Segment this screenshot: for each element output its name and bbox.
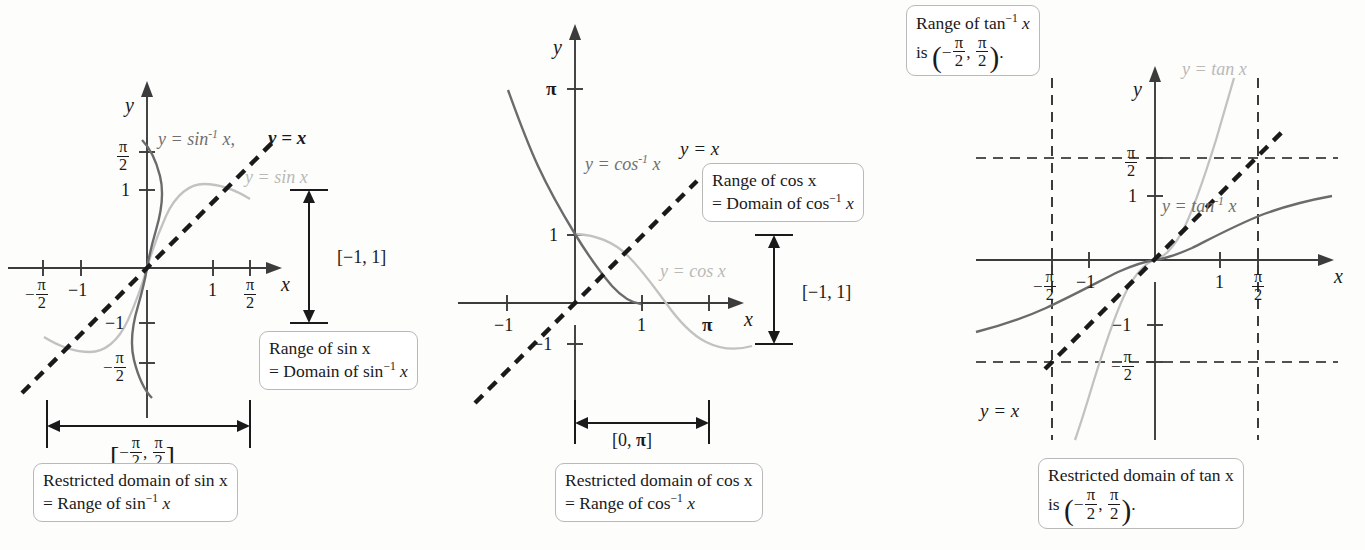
sine-inverse-label-var: x xyxy=(223,129,231,149)
sine-range-bracket xyxy=(290,190,328,323)
cosine-axes xyxy=(458,24,744,405)
tangent-direct-curve-label: y = tan x xyxy=(1182,60,1247,78)
sine-domain-callout: Restricted domain of sin x = Range of si… xyxy=(33,463,238,522)
sine-identity-curve-label: y = x xyxy=(268,128,306,147)
sine-range-callout: Range of sin x = Domain of sin−1 x xyxy=(259,331,418,390)
sine-x-axis-label: x xyxy=(281,274,290,294)
tangent-identity-line xyxy=(1045,131,1283,369)
tangent-panel: y x y = tan x y = tan-1 x y = x −π2 −1 1… xyxy=(890,0,1365,550)
tangent-domain-callout-line1: Restricted domain of tan x xyxy=(1048,464,1234,486)
tangent-ytick-1: 1 xyxy=(1128,187,1137,205)
sine-ytick-pi-2: π2 xyxy=(116,139,130,173)
tangent-range-callout-line1: Range of tan−1 x xyxy=(916,11,1030,34)
sine-range-callout-line2: = Domain of sin−1 x xyxy=(269,359,408,382)
tangent-identity-curve-label: y = x xyxy=(980,401,1019,420)
cosine-direct-curve xyxy=(576,234,752,349)
cosine-ytick-pi: π xyxy=(546,79,556,98)
cosine-range-callout: Range of cos x = Domain of cos−1 x xyxy=(702,163,864,222)
cosine-identity-line xyxy=(475,181,697,403)
cosine-xtick-neg-1: −1 xyxy=(494,316,513,334)
tangent-ytick-neg-pi-2: −π2 xyxy=(1111,349,1135,383)
tangent-inverse-label-var: x xyxy=(1229,196,1237,216)
cosine-domain-callout: Restricted domain of cos x = Range of co… xyxy=(555,463,763,522)
cosine-inverse-label-exp: -1 xyxy=(638,152,648,166)
sine-xtick-pi-2: π2 xyxy=(243,277,257,311)
cosine-panel: y x y = cos-1 x y = x y = cos x −1 1 π π… xyxy=(430,0,910,550)
cosine-domain-callout-line1: Restricted domain of cos x xyxy=(565,469,753,491)
tangent-inverse-label-text: y = tan xyxy=(1162,196,1214,216)
sine-ytick-1: 1 xyxy=(121,181,130,199)
tangent-xtick-1: 1 xyxy=(1215,273,1224,291)
cosine-domain-interval-label: [0, π] xyxy=(612,430,652,451)
sine-inverse-label-exp: -1 xyxy=(208,127,218,141)
cosine-inverse-label-text: y = cos xyxy=(585,154,638,174)
sine-xtick-neg-pi-2: −π2 xyxy=(25,277,49,311)
cosine-range-interval-label: [−1, 1] xyxy=(802,282,851,303)
tangent-ytick-neg-1: −1 xyxy=(1112,316,1131,334)
tangent-xtick-neg-1: −1 xyxy=(1076,273,1095,291)
tangent-xtick-neg-pi-2: −π2 xyxy=(1033,269,1057,303)
cosine-identity-curve-label: y = x xyxy=(680,139,719,158)
sine-panel: y x y = sin-1 x, y = x y = sin x −π2 −1 … xyxy=(0,0,455,550)
tangent-range-callout: Range of tan−1 x is (−π2, π2). xyxy=(906,5,1040,76)
cosine-ytick-neg-1: −1 xyxy=(533,335,552,353)
sine-range-interval-label: [−1, 1] xyxy=(337,247,386,268)
tangent-domain-callout-line2: is (−π2, π2). xyxy=(1048,486,1234,521)
tangent-ytick-pi-2: π2 xyxy=(1124,145,1138,179)
sine-axes xyxy=(8,81,282,418)
tangent-domain-callout: Restricted domain of tan x is (−π2, π2). xyxy=(1038,458,1244,529)
sine-ytick-neg-pi-2: −π2 xyxy=(103,350,127,384)
tangent-inverse-curve-label: y = tan-1 x xyxy=(1162,196,1237,215)
sine-domain-callout-line2: = Range of sin−1 x xyxy=(43,491,228,514)
sine-y-axis-label: y xyxy=(125,95,134,115)
sine-inverse-label-text: y = sin xyxy=(158,129,208,149)
cosine-y-axis-label: y xyxy=(553,37,562,57)
cosine-inverse-label-var: x xyxy=(653,154,661,174)
cosine-range-callout-line2: = Domain of cos−1 x xyxy=(712,191,854,214)
cosine-xtick-1: 1 xyxy=(637,316,646,334)
sine-xtick-1: 1 xyxy=(208,281,217,299)
sine-domain-callout-line1: Restricted domain of sin x xyxy=(43,469,228,491)
sine-xtick-neg-1: −1 xyxy=(68,281,87,299)
sine-ytick-neg-1: −1 xyxy=(105,314,124,332)
cosine-x-axis-label: x xyxy=(744,309,753,329)
cosine-range-bracket xyxy=(755,235,793,344)
sine-direct-curve-label: y = sin x xyxy=(245,168,308,186)
sine-range-callout-line1: Range of sin x xyxy=(269,337,408,359)
cosine-xtick-pi: π xyxy=(702,315,712,334)
tangent-y-axis-label: y xyxy=(1133,79,1142,99)
tangent-inverse-label-exp: -1 xyxy=(1214,194,1224,208)
cosine-ytick-1: 1 xyxy=(549,226,558,244)
cosine-range-callout-line1: Range of cos x xyxy=(712,169,854,191)
tangent-axes xyxy=(976,66,1334,440)
tangent-inverse-curve xyxy=(976,196,1332,332)
tangent-x-axis-label: x xyxy=(1334,266,1343,286)
tangent-xtick-pi-2: π2 xyxy=(1251,269,1265,303)
cosine-inverse-curve-label: y = cos-1 x xyxy=(585,154,661,173)
tangent-range-callout-line2: is (−π2, π2). xyxy=(916,34,1030,69)
cosine-direct-curve-label: y = cos x xyxy=(660,262,726,280)
cosine-domain-callout-line2: = Range of cos−1 x xyxy=(565,491,753,514)
sine-inverse-curve-label: y = sin-1 x, xyxy=(158,129,235,148)
